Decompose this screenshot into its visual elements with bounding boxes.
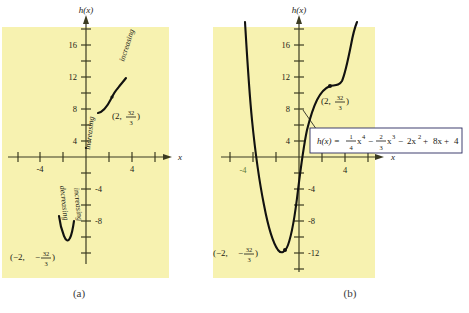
svg-text:32: 32 [337,94,344,101]
svg-text:3: 3 [338,104,341,111]
formula-term4: 8x [433,136,443,146]
formula-op1: − [368,136,373,146]
panel-b-xtick-4: 4 [343,165,348,175]
panel-b-plot: h(x) x 16 12 8 4 -4 -8 -12 -4 4 (2, 32 3… [235,0,469,313]
svg-text:(−2,: (−2, [213,248,228,258]
panel-b-point-dot-upper [328,84,332,88]
panel-a-ytick-16: 16 [69,40,78,50]
svg-text:): ) [346,96,349,106]
panel-a-point-dot-upper [110,95,113,98]
formula-op3: + [423,136,428,146]
formula-box: h(x) = 1 4 x 4 − 2 3 x 3 − 2x 2 + 8x + 4 [310,128,462,153]
formula-op4: + [444,136,449,146]
formula-term2-num: 2 [379,133,382,140]
formula-lhs: h(x) = [317,136,340,146]
svg-text:): ) [137,111,140,121]
formula-term3: 2x [407,136,417,146]
panel-b-y-axis-label: h(x) [292,5,307,15]
panel-a-annot-increasing-near-axis: increasing [83,116,96,150]
svg-text:h(x) =: h(x) = [317,136,340,146]
svg-text:32: 32 [128,109,135,116]
panel-a-ytick-neg8: -8 [95,216,102,226]
formula-term3-exp: 2 [418,133,421,140]
x-axis-arrow [163,154,172,160]
svg-text:32: 32 [246,246,253,253]
panel-a: h(x) x 16 12 8 4 -4 -8 -4 4 increasing i… [0,0,234,313]
panel-a-point-label-upper: (2, 32 3 ) [112,109,140,126]
panel-b-ytick-12: 12 [282,72,291,82]
panel-b: h(x) x 16 12 8 4 -4 -8 -12 -4 4 (2, 32 3… [235,0,469,313]
panel-a-point-label-lower: (−2, − 32 3 ) [10,250,55,267]
panel-a-plot: h(x) x 16 12 8 4 -4 -8 -4 4 increasing i… [0,0,234,313]
panel-b-caption: (b) [233,287,467,299]
svg-text:−: − [238,248,243,258]
panel-a-xtick-4: 4 [130,164,135,174]
panel-b-ytick-4: 4 [286,136,291,146]
panel-a-caption: (a) [0,287,196,299]
svg-text:3: 3 [129,119,132,126]
panel-a-annot-increasing-upper: increasing [117,28,136,63]
panel-a-ytick-12: 12 [69,72,78,82]
panel-b-ytick-neg12: -12 [308,248,319,258]
panel-b-point-dot-lower [283,248,287,252]
svg-text:3: 3 [44,260,47,267]
panel-a-ytick-neg4: -4 [95,184,103,194]
formula-term5: 4 [454,136,459,146]
panel-a-xtick-neg4: -4 [36,164,44,174]
formula-term1-num: 1 [349,133,352,140]
svg-text:(2,: (2, [112,111,122,121]
svg-text:32: 32 [43,250,50,257]
panel-a-x-axis-label: x [177,152,182,162]
panel-b-y-axis [294,15,304,272]
svg-text:(−2,: (−2, [10,252,25,262]
panel-a-ytick-8: 8 [73,104,77,114]
panel-a-y-axis-label: h(x) [79,5,94,15]
svg-text:(2,: (2, [321,96,331,106]
panel-a-ytick-4: 4 [73,136,78,146]
svg-text:): ) [52,252,55,262]
panel-b-point-label-upper: (2, 32 3 ) [321,94,349,111]
panel-a-annot-increasing-lower: increasing [72,187,84,221]
panel-b-ytick-neg8: -8 [308,216,315,226]
svg-text:): ) [255,248,258,258]
panel-a-x-axis [8,152,172,162]
formula-op2: − [398,136,403,146]
svg-text:−: − [35,252,40,262]
panel-b-ytick-8: 8 [286,104,290,114]
x-axis-arrow [375,154,384,160]
panel-b-xtick-neg4: -4 [239,165,247,175]
formula-term2-den: 3 [379,144,382,151]
y-axis-arrow [296,15,302,24]
svg-text:3: 3 [247,256,250,263]
y-axis-arrow [83,15,89,24]
panel-b-ytick-16: 16 [282,40,291,50]
panel-b-x-axis-label: x [390,152,395,162]
panel-b-ytick-neg4: -4 [308,184,316,194]
formula-term2-exp: 3 [392,133,395,140]
